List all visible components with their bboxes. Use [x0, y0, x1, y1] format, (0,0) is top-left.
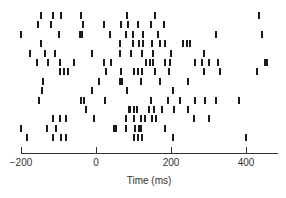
spike-tick: [73, 59, 75, 66]
spike-tick: [149, 59, 151, 66]
spike-tick: [125, 31, 127, 38]
spike-tick: [179, 97, 181, 104]
raster-plot: −2000200400 Time (ms): [0, 0, 286, 198]
spike-tick: [104, 97, 106, 104]
spike-tick: [150, 97, 152, 104]
spike-tick: [140, 78, 142, 85]
spike-tick: [80, 97, 82, 104]
spike-tick: [201, 59, 203, 66]
spike-tick: [120, 21, 122, 28]
spike-tick: [187, 106, 189, 113]
spike-tick: [119, 50, 121, 57]
spike-tick: [127, 21, 129, 28]
spike-tick: [26, 134, 28, 141]
spike-tick: [203, 68, 205, 75]
spike-tick: [153, 106, 155, 113]
spike-tick: [109, 31, 111, 38]
spike-tick: [141, 50, 143, 57]
spike-tick: [36, 59, 38, 66]
spike-tick: [54, 50, 56, 57]
spike-tick: [60, 12, 62, 19]
spike-tick: [50, 21, 52, 28]
spike-tick: [59, 115, 61, 122]
spike-tick: [215, 31, 217, 38]
spike-tick: [238, 97, 240, 104]
spike-tick: [170, 50, 172, 57]
x-tick-mark: [96, 147, 97, 153]
spike-tick: [189, 40, 191, 47]
spike-tick: [37, 21, 39, 28]
x-axis-line: [21, 153, 278, 154]
spike-tick: [65, 115, 67, 122]
spike-tick: [20, 125, 22, 132]
spike-tick: [134, 125, 136, 132]
spike-tick: [42, 78, 44, 85]
spike-tick: [164, 125, 166, 132]
spike-tick: [67, 68, 69, 75]
spike-tick: [105, 68, 107, 75]
spike-tick: [258, 12, 260, 19]
spike-tick: [130, 50, 132, 57]
spike-tick: [29, 50, 31, 57]
spike-tick: [132, 31, 134, 38]
spike-tick: [98, 78, 100, 85]
spike-tick: [138, 40, 140, 47]
spike-tick: [110, 59, 112, 66]
x-tick-label: −200: [10, 157, 33, 168]
spike-tick: [261, 31, 263, 38]
spike-tick: [182, 40, 184, 47]
spike-tick: [91, 50, 93, 57]
spike-tick: [157, 31, 159, 38]
spike-tick: [93, 115, 95, 122]
spike-tick: [145, 59, 147, 66]
x-tick-label: 0: [93, 157, 99, 168]
spike-tick: [215, 97, 217, 104]
x-tick-mark: [171, 147, 172, 153]
spike-tick: [217, 59, 219, 66]
spike-tick: [137, 68, 139, 75]
x-axis-label: Time (ms): [127, 175, 172, 186]
spike-tick: [161, 106, 163, 113]
spike-tick: [142, 40, 144, 47]
spike-tick: [129, 106, 131, 113]
spike-tick: [103, 21, 105, 28]
spike-tick: [163, 21, 165, 28]
spike-tick: [159, 78, 161, 85]
spike-tick: [85, 106, 87, 113]
spike-tick: [41, 87, 43, 94]
spike-tick: [20, 31, 22, 38]
spike-tick: [125, 115, 127, 122]
spike-tick: [187, 78, 189, 85]
spike-tick: [208, 115, 210, 122]
spike-tick: [173, 106, 175, 113]
spike-tick: [126, 87, 128, 94]
spike-tick: [256, 68, 258, 75]
spike-tick: [140, 115, 142, 122]
spike-tick: [151, 40, 153, 47]
spike-tick: [63, 68, 65, 75]
spike-tick: [169, 59, 171, 66]
spike-tick: [137, 134, 139, 141]
spike-tick: [164, 40, 166, 47]
spike-tick: [55, 125, 57, 132]
spike-tick: [194, 59, 196, 66]
spike-tick: [59, 59, 61, 66]
spike-tick: [266, 59, 268, 66]
spike-tick: [115, 125, 117, 132]
spike-tick: [133, 68, 135, 75]
spike-tick: [136, 106, 138, 113]
spike-tick: [208, 59, 210, 66]
spike-tick: [125, 125, 127, 132]
spike-tick: [194, 97, 196, 104]
spike-tick: [46, 125, 48, 132]
spike-tick: [40, 40, 42, 47]
spike-tick: [133, 106, 135, 113]
spike-tick: [148, 106, 150, 113]
spike-tick: [126, 12, 128, 19]
spike-tick: [40, 12, 42, 19]
spike-tick: [155, 115, 157, 122]
spike-tick: [52, 134, 54, 141]
spike-tick: [137, 21, 139, 28]
spike-tick: [186, 40, 188, 47]
spike-tick: [52, 12, 54, 19]
